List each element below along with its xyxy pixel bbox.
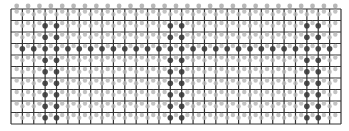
cell-peg-top[interactable] <box>151 90 155 94</box>
peg-light[interactable] <box>202 12 206 16</box>
peg-light[interactable] <box>248 69 252 73</box>
peg-dark[interactable] <box>304 80 310 86</box>
peg-dark[interactable] <box>54 69 60 75</box>
cell-peg-top[interactable] <box>140 90 144 94</box>
peg-light[interactable] <box>123 92 127 96</box>
cell-peg-top[interactable] <box>140 78 144 82</box>
cell-peg-top[interactable] <box>299 9 303 13</box>
cell-peg-top[interactable] <box>83 55 87 59</box>
peg-light[interactable] <box>225 58 229 62</box>
cell-peg-top[interactable] <box>333 32 337 36</box>
cell-peg-top[interactable] <box>276 90 280 94</box>
peg-light[interactable] <box>20 35 24 39</box>
peg-light[interactable] <box>327 81 331 85</box>
peg-light[interactable] <box>100 58 104 62</box>
peg-dark[interactable] <box>247 46 253 52</box>
cell-peg-top[interactable] <box>71 55 75 59</box>
cell-peg-top[interactable] <box>128 78 132 82</box>
top-peg[interactable] <box>310 4 315 9</box>
cell-peg-top[interactable] <box>162 90 166 94</box>
peg-light[interactable] <box>327 69 331 73</box>
peg-light[interactable] <box>202 35 206 39</box>
peg-light[interactable] <box>123 35 127 39</box>
cell-peg-top[interactable] <box>322 101 326 105</box>
cell-peg-top[interactable] <box>49 32 53 36</box>
cell-peg-top[interactable] <box>174 32 178 36</box>
cell-peg-top[interactable] <box>71 78 75 82</box>
cell-peg-top[interactable] <box>83 44 87 48</box>
cell-peg-top[interactable] <box>276 113 280 117</box>
cell-peg-top[interactable] <box>14 67 18 71</box>
peg-light[interactable] <box>179 12 183 16</box>
top-peg[interactable] <box>105 4 110 9</box>
peg-dark[interactable] <box>179 92 185 98</box>
peg-light[interactable] <box>77 92 81 96</box>
cell-peg-top[interactable] <box>117 9 121 13</box>
cell-peg-top[interactable] <box>185 9 189 13</box>
cell-peg-top[interactable] <box>219 78 223 82</box>
peg-light[interactable] <box>66 81 70 85</box>
peg-dark[interactable] <box>304 46 310 52</box>
cell-peg-top[interactable] <box>128 32 132 36</box>
cell-peg-top[interactable] <box>174 90 178 94</box>
cell-peg-top[interactable] <box>197 21 201 25</box>
cell-peg-top[interactable] <box>60 44 64 48</box>
peg-light[interactable] <box>271 69 275 73</box>
cell-peg-top[interactable] <box>242 44 246 48</box>
cell-peg-top[interactable] <box>60 55 64 59</box>
peg-light[interactable] <box>214 69 218 73</box>
peg-light[interactable] <box>66 92 70 96</box>
top-peg[interactable] <box>26 4 31 9</box>
cell-peg-top[interactable] <box>94 67 98 71</box>
cell-peg-top[interactable] <box>208 78 212 82</box>
top-peg[interactable] <box>242 4 247 9</box>
cell-peg-top[interactable] <box>219 32 223 36</box>
cell-peg-top[interactable] <box>333 44 337 48</box>
peg-light[interactable] <box>271 104 275 108</box>
cell-peg-top[interactable] <box>117 32 121 36</box>
cell-peg-top[interactable] <box>253 78 257 82</box>
peg-light[interactable] <box>191 35 195 39</box>
cell-peg-top[interactable] <box>37 55 41 59</box>
peg-dark[interactable] <box>179 34 185 40</box>
peg-light[interactable] <box>123 81 127 85</box>
peg-light[interactable] <box>293 104 297 108</box>
peg-dark[interactable] <box>304 92 310 98</box>
top-peg[interactable] <box>322 4 327 9</box>
peg-light[interactable] <box>248 92 252 96</box>
cell-peg-top[interactable] <box>208 55 212 59</box>
peg-light[interactable] <box>111 12 115 16</box>
cell-peg-top[interactable] <box>174 21 178 25</box>
cell-peg-top[interactable] <box>151 55 155 59</box>
peg-light[interactable] <box>157 115 161 119</box>
cell-peg-top[interactable] <box>26 78 30 82</box>
peg-dark[interactable] <box>315 34 321 40</box>
cell-peg-top[interactable] <box>71 9 75 13</box>
peg-light[interactable] <box>225 23 229 27</box>
cell-peg-top[interactable] <box>162 9 166 13</box>
cell-peg-top[interactable] <box>60 113 64 117</box>
cell-peg-top[interactable] <box>162 44 166 48</box>
cell-peg-top[interactable] <box>94 78 98 82</box>
cell-peg-top[interactable] <box>14 113 18 117</box>
peg-light[interactable] <box>32 81 36 85</box>
peg-dark[interactable] <box>42 57 48 63</box>
peg-light[interactable] <box>100 104 104 108</box>
peg-dark[interactable] <box>42 69 48 75</box>
cell-peg-top[interactable] <box>185 67 189 71</box>
peg-light[interactable] <box>100 92 104 96</box>
peg-light[interactable] <box>134 115 138 119</box>
peg-dark[interactable] <box>179 57 185 63</box>
cell-peg-top[interactable] <box>117 44 121 48</box>
peg-light[interactable] <box>214 104 218 108</box>
peg-light[interactable] <box>191 115 195 119</box>
peg-light[interactable] <box>123 104 127 108</box>
cell-peg-top[interactable] <box>253 101 257 105</box>
cell-peg-top[interactable] <box>265 44 269 48</box>
cell-peg-top[interactable] <box>322 9 326 13</box>
cell-peg-top[interactable] <box>310 44 314 48</box>
cell-peg-top[interactable] <box>106 78 110 82</box>
cell-peg-top[interactable] <box>276 101 280 105</box>
cell-peg-top[interactable] <box>288 9 292 13</box>
peg-light[interactable] <box>327 92 331 96</box>
